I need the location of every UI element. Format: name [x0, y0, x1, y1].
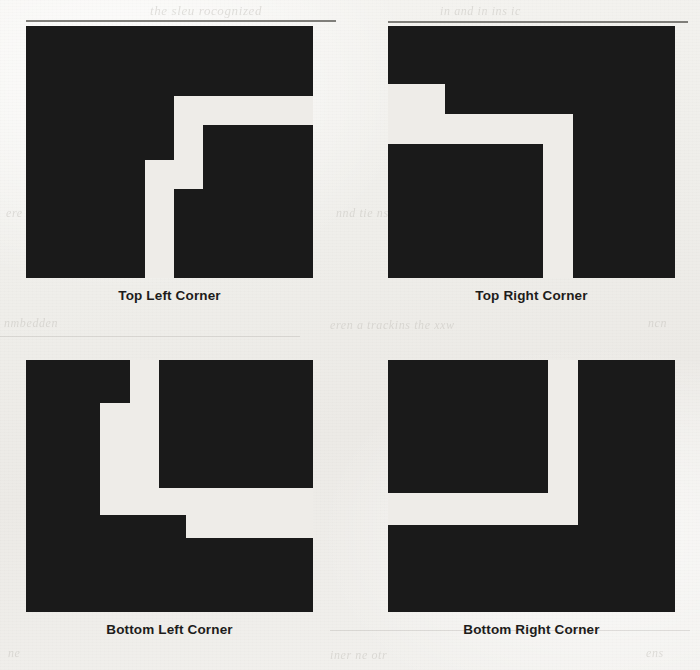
- caption-top-left-corner: Top Left Corner: [26, 288, 313, 303]
- corner-pattern-top-left-icon: [26, 26, 313, 278]
- caption-top-right-corner: Top Right Corner: [388, 288, 675, 303]
- panel-top-left-corner: Top Left Corner: [26, 26, 313, 303]
- panel-top-right-corner: Top Right Corner: [388, 26, 675, 303]
- figure-corner-patterns: Top Left Corner Top Right Corner Bottom …: [0, 0, 700, 670]
- corner-pattern-bottom-left-icon: [26, 360, 313, 612]
- corner-pattern-top-right-icon: [388, 26, 675, 278]
- caption-bottom-right-corner: Bottom Right Corner: [388, 622, 675, 637]
- panel-bottom-left-corner: Bottom Left Corner: [26, 360, 313, 637]
- panel-bottom-right-corner: Bottom Right Corner: [388, 360, 675, 637]
- corner-pattern-bottom-right-icon: [388, 360, 675, 612]
- caption-bottom-left-corner: Bottom Left Corner: [26, 622, 313, 637]
